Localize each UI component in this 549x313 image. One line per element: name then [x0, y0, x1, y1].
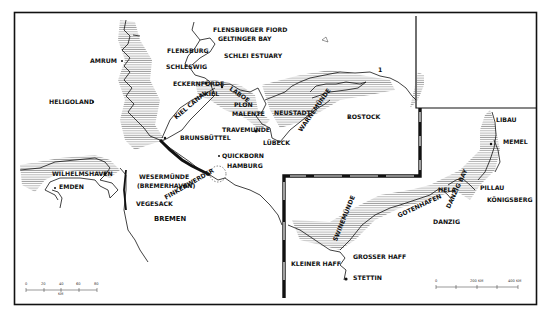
- label-wilhelmshaven: WILHELMSHAVEN: [52, 171, 113, 177]
- scale-right-tick-200: 200 KM: [470, 280, 483, 284]
- label-eckernforde: ECKERNFÖRDE: [173, 81, 224, 87]
- label-brunsbuttel: BRUNSBÜTTEL: [180, 135, 231, 141]
- scale-left-tick-20: 20: [41, 283, 46, 287]
- label-pillau: PILLAU: [480, 185, 504, 191]
- scale-right-tick-400: 400 KM: [508, 280, 521, 284]
- label-flensburg: FLENSBURG: [167, 48, 209, 54]
- scale-right-tick-0: 0: [435, 280, 437, 284]
- label-marker-1: 1: [378, 67, 382, 73]
- label-malente: MALENTE: [232, 111, 265, 117]
- label-rostock: ROSTOCK: [347, 114, 380, 120]
- scale-left-unit: KM: [58, 293, 63, 297]
- label-schleswig: SCHLESWIG: [166, 64, 207, 70]
- label-emden: EMDEN: [59, 184, 84, 190]
- label-heligoland: HELIGOLAND: [49, 99, 94, 105]
- label-geltinger-bay: GELTINGER BAY: [218, 36, 272, 42]
- scale-bar-right: [436, 285, 518, 289]
- label-vegesack: VEGESACK: [136, 201, 173, 207]
- label-kleiner-haff: KLEINER HAFF: [291, 261, 341, 267]
- label-konigsberg: KÖNIGSBERG: [487, 197, 533, 203]
- label-bremen: BREMEN: [154, 216, 186, 223]
- scale-left-tick-60: 60: [76, 283, 81, 287]
- label-grosser-haff: GROSSER HAFF: [353, 254, 406, 260]
- label-danzig: DANZIG: [433, 219, 460, 225]
- label-lubeck: LÜBECK: [263, 140, 290, 146]
- label-flensburger-fiord: FLENSBURGER FIORD: [213, 27, 287, 33]
- scale-left-tick-80: 80: [94, 283, 99, 287]
- label-memel: MEMEL: [503, 139, 528, 145]
- label-schlei-estuary: SCHLEI ESTUARY: [224, 53, 282, 59]
- label-plon: PLON: [234, 102, 253, 108]
- label-quickborn: QUICKBORN: [222, 153, 264, 159]
- elbe-river: [160, 140, 210, 175]
- scale-left-tick-0: 0: [25, 283, 27, 287]
- label-wesermunde: WESERMÜNDE: [139, 174, 189, 180]
- map-canvas: [0, 0, 549, 313]
- label-travemunde: TRAVEMUNDE: [222, 127, 270, 133]
- scale-left-tick-40: 40: [59, 283, 64, 287]
- label-stettin: STETTIN: [353, 275, 382, 281]
- heligoland-island: [322, 37, 328, 42]
- label-libau: LIBAU: [496, 117, 517, 123]
- label-hamburg: HAMBURG: [227, 163, 263, 169]
- label-amrum: AMRUM: [90, 58, 117, 64]
